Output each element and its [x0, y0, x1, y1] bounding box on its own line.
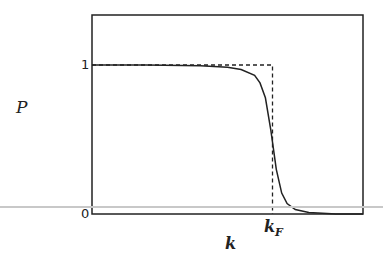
- smooth-distribution-curve: [92, 65, 363, 214]
- x-tick-kf: kF: [264, 219, 283, 238]
- horizontal-guide-line: [0, 206, 383, 208]
- fermi-distribution-chart: [0, 0, 383, 263]
- kf-base: k: [264, 217, 275, 236]
- step-function-line: [92, 65, 273, 214]
- kf-subscript: F: [275, 226, 283, 239]
- plot-frame: [92, 15, 363, 214]
- y-axis-label: P: [16, 99, 27, 116]
- y-tick-one: 1: [81, 58, 89, 71]
- x-axis-label: k: [225, 236, 236, 252]
- y-tick-zero: 0: [81, 207, 89, 220]
